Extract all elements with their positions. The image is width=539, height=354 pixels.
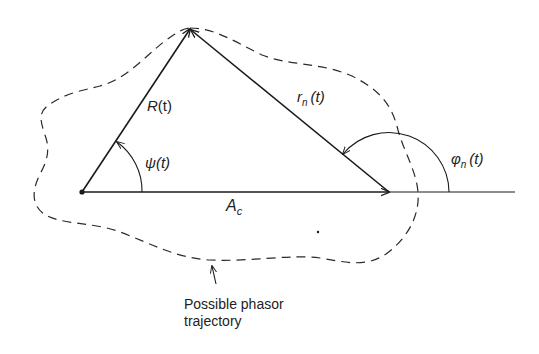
trajectory-pointer-arrow	[212, 266, 216, 284]
resultant-label: R(t)	[147, 97, 172, 114]
trajectory-annotation-line2: trajectory	[184, 313, 242, 329]
phasor-trajectory-curve	[34, 28, 418, 263]
resultant-vector	[82, 29, 190, 192]
stray-dot	[317, 231, 319, 233]
phasor-diagram: R(t) ψ(t) Ac rn(t) φn(t) Possible phasor…	[0, 0, 539, 354]
psi-label: ψ(t)	[145, 154, 170, 171]
phi-label: φn(t)	[451, 150, 484, 170]
psi-angle-arc	[117, 142, 142, 192]
trajectory-annotation-line1: Possible phasor	[184, 296, 284, 312]
carrier-label: Ac	[225, 197, 243, 217]
phi-angle-arc	[343, 133, 449, 192]
noise-vector	[191, 30, 389, 192]
noise-label: rn(t)	[297, 88, 325, 108]
origin-point	[79, 189, 84, 194]
